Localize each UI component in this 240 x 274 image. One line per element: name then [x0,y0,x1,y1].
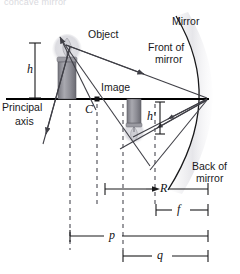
center-of-curvature-point [95,97,100,102]
label-back-of-mirror-line1: Back of [192,160,227,172]
label-f: f [177,203,180,215]
image-height-bar [155,102,165,134]
label-C: C [85,103,93,115]
label-R: R [160,182,167,194]
dimension-R [105,183,208,195]
label-object: Object [88,28,118,40]
label-front-of-mirror-line2: mirror [155,53,182,65]
dimension-p [70,230,208,242]
label-back-of-mirror-line2: mirror [196,172,223,184]
label-image: Image [101,81,130,93]
label-principal-line1: Principal [2,101,42,113]
figure-canvas: concave mirror [0,0,240,274]
dimension-q [123,250,208,262]
label-h: h [27,63,33,75]
label-principal-line2: axis [15,115,34,127]
dimension-f [156,204,208,216]
label-h-prime: h′ [147,110,156,122]
label-mirror: Mirror [172,15,199,27]
label-p: p [109,229,115,241]
object-candle [52,34,82,99]
image-candle [123,99,145,145]
ray-diagram-svg [0,0,240,274]
label-q: q [157,249,163,261]
label-front-of-mirror-line1: Front of [148,41,184,53]
